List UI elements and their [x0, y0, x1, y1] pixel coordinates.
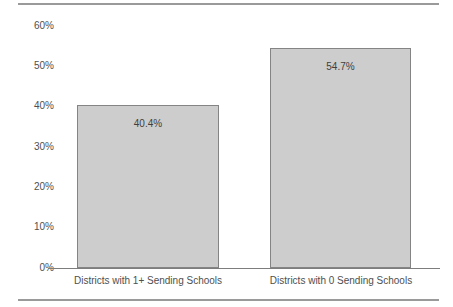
bar-chart: 60% 50% 40% 30% 20% 10% 0% 40.4% 54.7% D…	[0, 0, 453, 307]
y-axis-tick-10: 10%	[14, 222, 54, 232]
bar-value-label-1: 40.4%	[78, 119, 218, 129]
y-axis-tick-60: 60%	[14, 21, 54, 31]
y-axis-tick-20: 20%	[14, 182, 54, 192]
y-axis-tick-50: 50%	[14, 61, 54, 71]
y-axis-tick-40: 40%	[14, 101, 54, 111]
bar-districts-with-0-sending-schools[interactable]: 54.7%	[270, 48, 411, 268]
x-axis-line	[48, 268, 440, 269]
bar-districts-with-1-plus-sending-schools[interactable]: 40.4%	[77, 105, 219, 268]
x-axis-category-label-1: Districts with 1+ Sending Schools	[58, 275, 238, 287]
bar-value-label-2: 54.7%	[271, 62, 410, 72]
x-axis-category-label-2: Districts with 0 Sending Schools	[251, 275, 431, 287]
y-axis-tick-30: 30%	[14, 142, 54, 152]
